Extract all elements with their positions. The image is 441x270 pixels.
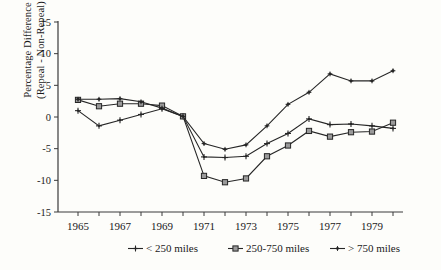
data-point-marker [348, 121, 354, 127]
data-point-marker [117, 101, 122, 106]
series-line [78, 100, 393, 182]
legend-label: < 250 miles [146, 242, 198, 254]
data-series [75, 97, 395, 185]
x-axis-tick-label: 1971 [193, 220, 215, 232]
x-axis-tick-label: 1969 [151, 220, 174, 232]
data-point-marker [201, 154, 207, 160]
data-series-group [75, 68, 396, 184]
y-axis-tick-label: 15 [41, 17, 52, 28]
data-point-marker [264, 154, 269, 159]
data-point-marker [390, 125, 396, 131]
data-point-marker [264, 141, 270, 147]
data-point-marker [391, 68, 396, 73]
data-series [76, 68, 396, 151]
data-point-marker [223, 147, 228, 152]
series-line [78, 71, 393, 150]
y-axis-tick-label: -15 [37, 207, 51, 218]
data-point-marker [118, 96, 123, 101]
y-axis-tick-label: 0 [46, 112, 51, 123]
y-axis-tick-label: -10 [37, 175, 51, 186]
data-point-marker [243, 153, 249, 159]
y-axis-tick-label: 10 [41, 48, 52, 59]
data-point-marker [348, 130, 353, 135]
legend-label: > 750 miles [348, 242, 400, 254]
legend-item: > 750 miles [330, 242, 400, 254]
x-axis-tick-label: 1973 [235, 220, 258, 232]
data-point-marker [335, 246, 340, 251]
data-point-marker [133, 246, 139, 252]
data-point-marker [285, 143, 290, 148]
data-point-marker [327, 122, 333, 128]
line-chart-plot: 151050-5-10-1519651967196919711973197519… [0, 0, 441, 270]
data-point-marker [222, 180, 227, 185]
data-point-marker [201, 173, 206, 178]
data-point-marker [222, 155, 228, 161]
chart-legend: < 250 miles250-750 miles> 750 miles [128, 242, 400, 254]
y-axis-tick-label: -5 [42, 143, 51, 154]
data-point-marker [369, 129, 374, 134]
x-axis-tick-label: 1965 [67, 220, 90, 232]
legend-item: 250-750 miles [228, 242, 309, 254]
data-point-marker [97, 97, 102, 102]
x-axis-tick-label: 1979 [361, 220, 384, 232]
data-point-marker [369, 123, 375, 129]
data-point-marker [349, 79, 354, 84]
y-axis-tick-label: 5 [46, 80, 51, 91]
data-point-marker [306, 128, 311, 133]
legend-label: 250-750 miles [246, 242, 309, 254]
x-axis-tick-label: 1967 [109, 220, 132, 232]
data-point-marker [243, 176, 248, 181]
x-axis-tick-label: 1977 [319, 220, 342, 232]
chart-figure: Percentage Difference (Repeal - Non-Repe… [0, 0, 441, 270]
data-point-marker [138, 111, 144, 117]
data-point-marker [117, 117, 123, 123]
legend-item: < 250 miles [128, 242, 198, 254]
data-point-marker [327, 134, 332, 139]
data-point-marker [233, 246, 238, 251]
data-point-marker [96, 104, 101, 109]
data-point-marker [370, 79, 375, 84]
data-point-marker [390, 120, 395, 125]
x-axis-tick-label: 1975 [277, 220, 300, 232]
